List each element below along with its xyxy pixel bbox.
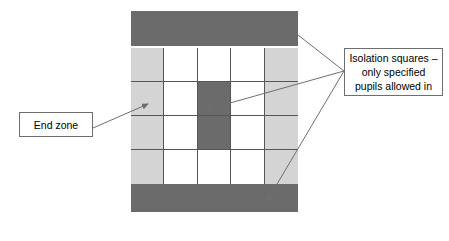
grid-cell-r3c1	[131, 116, 164, 150]
grid-cell-r4c4	[231, 150, 264, 184]
grid-cell-r3c5	[265, 116, 298, 150]
zone-grid	[131, 48, 298, 184]
grid-cell-r1c2	[164, 48, 197, 82]
connector-isolation-top-band	[298, 35, 344, 71]
callout-isolation-line-2: only specified	[362, 65, 426, 79]
callout-end-zone[interactable]: End zone	[19, 112, 93, 137]
grid-cell-r4c1	[131, 150, 164, 184]
grid-cell-r2c4	[231, 82, 264, 116]
isolation-square-lower	[198, 116, 231, 150]
callout-isolation-squares[interactable]: Isolation squares – only specified pupil…	[344, 48, 443, 96]
grid-cell-r1c4	[231, 48, 264, 82]
end-zone-band-top	[131, 11, 298, 46]
grid-cell-r4c5	[265, 150, 298, 184]
grid-cell-r3c2	[164, 116, 197, 150]
isolation-square-upper	[198, 82, 231, 116]
grid-cell-r1c1	[131, 48, 164, 82]
diagram-canvas: End zone Isolation squares – only specif…	[0, 0, 449, 241]
grid-cell-r3c4	[231, 116, 264, 150]
callout-isolation-line-3: pupils allowed in	[355, 79, 432, 93]
grid-cell-r4c3	[198, 150, 231, 184]
grid-cell-r2c5	[265, 82, 298, 116]
grid-cell-r1c5	[265, 48, 298, 82]
grid-cell-r2c2	[164, 82, 197, 116]
playground-layout	[131, 11, 298, 212]
callout-end-zone-line-1: End zone	[34, 118, 78, 132]
grid-cell-r1c3	[198, 48, 231, 82]
callout-isolation-line-1: Isolation squares –	[349, 51, 437, 65]
grid-cell-r4c2	[164, 150, 197, 184]
grid-cell-r2c1	[131, 82, 164, 116]
